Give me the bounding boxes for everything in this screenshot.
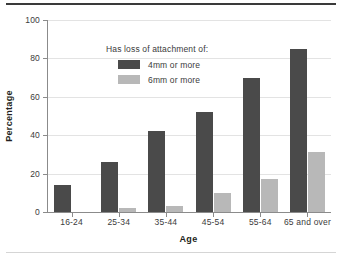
bar[interactable]: [148, 131, 165, 212]
y-axis-tick-label: 80: [30, 53, 40, 63]
x-axis-tick-label: 45-54: [202, 217, 225, 227]
bar-pair: [48, 20, 95, 212]
bar[interactable]: [290, 49, 307, 212]
bar[interactable]: [214, 193, 231, 212]
bar[interactable]: [54, 185, 71, 212]
bar[interactable]: [119, 208, 136, 212]
plot-area: 020406080100 16-2425-3435-4445-5455-6465…: [47, 20, 331, 213]
x-axis-tick-label: 55-64: [249, 217, 272, 227]
bar[interactable]: [243, 78, 260, 212]
legend-item-4mm: 4mm or more: [106, 58, 256, 71]
x-axis-tick-label: 65 and over: [284, 217, 331, 227]
bar[interactable]: [166, 206, 183, 212]
bar-group: 65 and over: [284, 20, 331, 212]
y-axis-tick-label: 0: [35, 207, 40, 217]
legend-item-6mm: 6mm or more: [106, 73, 256, 86]
legend-label-4mm: 4mm or more: [148, 60, 200, 70]
legend-label-6mm: 6mm or more: [148, 75, 200, 85]
y-axis-tick-label: 20: [30, 169, 40, 179]
bar[interactable]: [101, 162, 118, 212]
x-axis-tick-label: 25-34: [107, 217, 130, 227]
y-axis-tick-label: 40: [30, 130, 40, 140]
legend-swatch-6mm: [118, 75, 140, 84]
y-axis-tick-label: 100: [25, 15, 40, 25]
y-axis-title: Percentage: [3, 20, 15, 212]
bar-pair: [284, 20, 331, 212]
bar-group: 16-24: [48, 20, 95, 212]
chart-legend: Has loss of attachment of: 4mm or more 6…: [106, 44, 256, 88]
legend-title: Has loss of attachment of:: [106, 44, 256, 54]
y-axis-tick: [43, 212, 48, 213]
top-divider-rule: [6, 3, 336, 5]
x-axis-title: Age: [47, 234, 330, 244]
bar[interactable]: [261, 179, 278, 212]
x-axis-tick-label: 35-44: [155, 217, 178, 227]
bar[interactable]: [308, 152, 325, 212]
chart-figure: Percentage Age 020406080100 16-2425-3435…: [0, 0, 342, 261]
legend-swatch-4mm: [118, 60, 140, 69]
x-axis-tick-label: 16-24: [60, 217, 83, 227]
bottom-divider-rule: [6, 252, 336, 253]
bar[interactable]: [196, 112, 213, 212]
y-axis-tick-label: 60: [30, 92, 40, 102]
